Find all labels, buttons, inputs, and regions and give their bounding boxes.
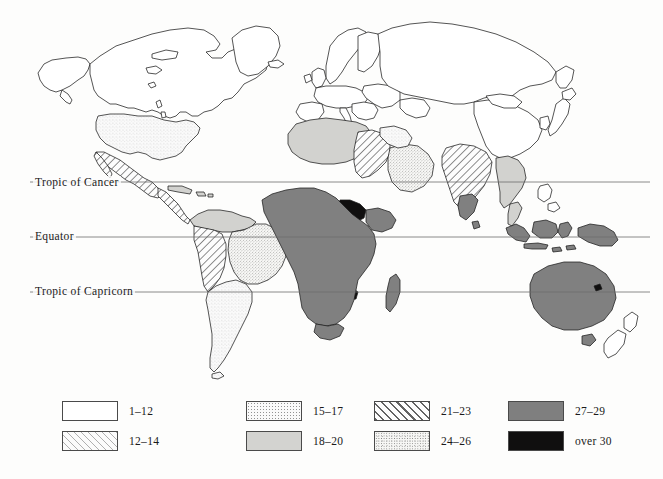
- region-puerto-rico[interactable]: [208, 194, 213, 197]
- legend-item-12-14[interactable]: 12–14: [62, 430, 159, 452]
- region-canada-island-5[interactable]: [161, 112, 166, 118]
- legend-label-24-26: 24–26: [441, 435, 471, 447]
- legend-swatch-18-20: [246, 431, 302, 451]
- world-map-svg[interactable]: [0, 0, 663, 392]
- legend-swatch-27-29: [508, 401, 564, 421]
- legend-label-12-14: 12–14: [129, 435, 159, 447]
- region-indonesia-small-2[interactable]: [566, 245, 576, 250]
- legend-item-27-29[interactable]: 27–29: [508, 400, 612, 422]
- legend-item-15-17[interactable]: 15–17: [246, 400, 343, 422]
- legend-label-18-20: 18–20: [313, 435, 343, 447]
- legend-swatch-24-26: [374, 431, 430, 451]
- legend-label-27-29: 27–29: [575, 405, 605, 417]
- legend-item-1-12[interactable]: 1–12: [62, 400, 159, 422]
- legend-swatch-12-14: [62, 431, 118, 451]
- legend-swatch-over-30: [508, 431, 564, 451]
- legend-swatch-15-17: [246, 401, 302, 421]
- legend-label-15-17: 15–17: [313, 405, 343, 417]
- legend-column-4: 27–29 over 30: [508, 400, 612, 460]
- legend-swatch-1-12: [62, 401, 118, 421]
- legend-item-24-26[interactable]: 24–26: [374, 430, 471, 452]
- tropic-of-cancer-label: Tropic of Cancer: [33, 176, 121, 188]
- legend-column-1: 1–12 12–14: [62, 400, 159, 460]
- legend-column-3: 21–23 24–26: [374, 400, 471, 460]
- map-page: Tropic of Cancer Equator Tropic of Capri…: [0, 0, 663, 479]
- legend-item-over-30[interactable]: over 30: [508, 430, 612, 452]
- legend-label-21-23: 21–23: [441, 405, 471, 417]
- legend-label-1-12: 1–12: [129, 405, 153, 417]
- legend-column-2: 15–17 18–20: [246, 400, 343, 460]
- region-indonesia-small-1[interactable]: [552, 247, 562, 252]
- map-legend: 1–12 12–14 15–17 18–20 21–23: [0, 396, 663, 479]
- legend-item-18-20[interactable]: 18–20: [246, 430, 343, 452]
- world-map[interactable]: Tropic of Cancer Equator Tropic of Capri…: [0, 0, 663, 392]
- region-java[interactable]: [524, 243, 548, 249]
- region-hispaniola[interactable]: [196, 192, 206, 196]
- legend-swatch-21-23: [374, 401, 430, 421]
- equator-label: Equator: [33, 230, 76, 242]
- legend-label-over-30: over 30: [575, 435, 612, 447]
- legend-item-21-23[interactable]: 21–23: [374, 400, 471, 422]
- tropic-of-capricorn-label: Tropic of Capricorn: [33, 285, 135, 297]
